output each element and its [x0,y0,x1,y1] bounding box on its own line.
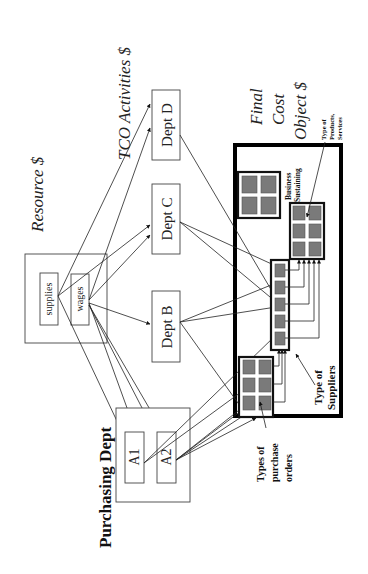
orders-label-3: orders [283,454,294,482]
business-sustaining-label-1: Business [284,172,293,200]
final-header-line3: Object $ [291,81,310,140]
final-header-line2: Cost [269,93,288,125]
final-header-line1: Final [247,88,266,126]
business-sustaining-grid [238,172,280,218]
dept-c-label: Dept C [159,198,175,241]
products-label-3: Services [336,117,343,140]
purchase-orders-grid [239,357,273,417]
dept-d-label: Dept D [159,103,175,147]
products-label-2: Products, [328,113,335,140]
products-grid [290,203,324,259]
orders-label-2: purchase [269,443,280,482]
a2-label: A2 [159,448,174,465]
suppliers-label-1: Type of [312,370,324,405]
wages-label: wages [74,286,85,311]
business-sustaining-label-2: Sustaining [293,168,302,202]
dept-b-label: Dept B [159,306,175,349]
suppliers-label-2: Suppliers [325,365,337,410]
suppliers-column [271,260,289,350]
products-label-1: Type of [320,119,327,140]
supplies-label: supplies [43,283,54,316]
purchasing-title: Purchasing Dept [96,427,115,548]
orders-label-1: Types of [255,446,266,482]
a1-label: A1 [127,448,142,465]
resource-header: Resource $ [28,156,47,233]
tco-diagram: Resource $ TCO Activities $ Final Cost O… [0,0,368,574]
